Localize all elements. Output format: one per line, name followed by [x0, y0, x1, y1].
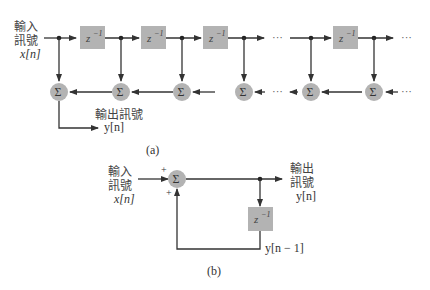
- svg-text:Σ: Σ: [370, 85, 377, 99]
- input-label-b-line2: 訊號: [108, 178, 132, 193]
- ellipsis-bottom-1: ···: [272, 85, 283, 97]
- svg-text:Σ: Σ: [307, 85, 314, 99]
- diagram-a: 輸入 訊號 x[n] ··· ··· z −1 z −1 z −1 z: [14, 19, 412, 157]
- svg-text:z: z: [146, 32, 152, 44]
- svg-text:Σ: Σ: [178, 85, 185, 99]
- svg-text:−1: −1: [261, 210, 270, 219]
- input-label-b-line1: 輸入: [108, 164, 132, 179]
- ellipsis-top-1: ···: [272, 31, 283, 43]
- input-label-a-line2: 訊號: [14, 33, 38, 48]
- sum-node-1: Σ: [50, 83, 68, 101]
- delay-block-b: z −1: [248, 207, 273, 231]
- svg-text:z: z: [208, 32, 214, 44]
- delay-block-4: z −1: [333, 26, 358, 49]
- input-signal-b: x[n]: [113, 192, 135, 206]
- plus-bottom: +: [166, 187, 172, 198]
- block-diagram-canvas: 輸入 訊號 x[n] ··· ··· z −1 z −1 z −1 z: [0, 0, 430, 290]
- sum-node-4: Σ: [235, 83, 253, 101]
- caption-a: (a): [146, 143, 159, 157]
- sum-node-2: Σ: [112, 83, 130, 101]
- output-label-b-line2: 訊號: [290, 175, 314, 190]
- feedback-signal: y[n − 1]: [265, 241, 304, 255]
- svg-text:Σ: Σ: [117, 85, 124, 99]
- svg-text:z: z: [253, 213, 259, 225]
- svg-text:Σ: Σ: [173, 172, 180, 186]
- svg-text:−1: −1: [216, 29, 225, 38]
- ellipsis-top-2: ···: [401, 31, 412, 43]
- svg-text:z: z: [338, 32, 344, 44]
- sum-node-5: Σ: [302, 83, 320, 101]
- output-signal-a: y[n]: [104, 120, 124, 134]
- sum-node-b: Σ: [168, 170, 186, 188]
- output-label-b-line1: 輸出: [290, 161, 314, 176]
- svg-text:Σ: Σ: [240, 85, 247, 99]
- delay-block-3: z −1: [203, 26, 228, 49]
- plus-top: +: [161, 164, 167, 175]
- sum-node-6: Σ: [365, 83, 383, 101]
- svg-text:−1: −1: [346, 29, 355, 38]
- caption-b: (b): [207, 264, 221, 278]
- diagram-b: 輸入 訊號 x[n] + + Σ z −1 輸出 訊號 y[n] y[n − 1…: [108, 161, 316, 278]
- ellipsis-bottom-2: ···: [401, 85, 412, 97]
- svg-text:z: z: [85, 32, 91, 44]
- input-signal-a: x[n]: [19, 47, 41, 61]
- delay-block-2: z −1: [141, 26, 166, 49]
- output-signal-b: y[n]: [296, 189, 316, 203]
- input-label-a-line1: 輸入: [14, 19, 38, 34]
- svg-text:−1: −1: [154, 29, 163, 38]
- delay-block-1: z −1: [80, 26, 105, 49]
- svg-text:−1: −1: [93, 29, 102, 38]
- svg-text:Σ: Σ: [55, 85, 62, 99]
- sum-node-3: Σ: [173, 83, 191, 101]
